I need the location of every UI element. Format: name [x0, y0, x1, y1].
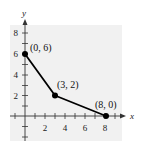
x-tick-label: 4	[63, 123, 68, 133]
point-label: (0, 6)	[30, 42, 52, 54]
y-tick-label: 6	[14, 49, 19, 59]
x-tick-label: 8	[103, 123, 108, 133]
x-axis-label: x	[129, 111, 134, 121]
point-label: (8, 0)	[95, 99, 117, 111]
y-axis-label: y	[21, 8, 26, 18]
point-label: (3, 2)	[57, 79, 79, 91]
data-point	[52, 93, 58, 99]
y-tick-label: 2	[14, 91, 19, 101]
graph: x y 2 4 6 8 2 4 6 8 (0, 6) (3, 2) (8, 0)	[0, 0, 141, 145]
data-point	[22, 51, 28, 57]
x-tick-label: 2	[43, 123, 48, 133]
x-tick-label: 6	[83, 123, 88, 133]
x-axis-arrow-icon	[120, 114, 126, 119]
y-tick-label: 4	[14, 70, 19, 80]
data-point	[103, 113, 109, 119]
y-axis-arrow-icon	[23, 19, 28, 25]
y-tick-label: 8	[14, 28, 19, 38]
